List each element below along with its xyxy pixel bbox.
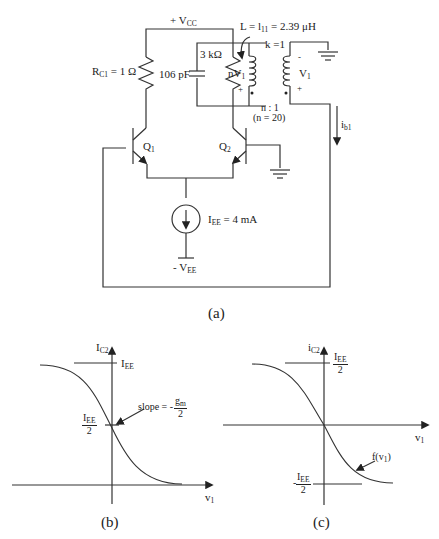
plot-c-top-fraction: IEE2 bbox=[333, 352, 348, 375]
rc1-label: RC1 = 1 Ω bbox=[92, 66, 136, 79]
turns-ratio-n-label: (n = 20) bbox=[253, 113, 285, 123]
plot-b-half-iee-label: IEE2 bbox=[82, 413, 97, 436]
inductor-label: L = l11 = 2.39 μH bbox=[240, 21, 316, 34]
plot-b bbox=[12, 348, 212, 504]
secondary-plus: + bbox=[297, 84, 302, 93]
caption-c: (c) bbox=[313, 514, 330, 531]
q1-label: Q1 bbox=[143, 141, 155, 154]
plot-b-ylabel: IC2 bbox=[96, 342, 108, 355]
secondary-minus: - bbox=[298, 53, 301, 62]
v1-label: V1 bbox=[299, 68, 311, 81]
primary-coil bbox=[249, 43, 256, 106]
current-source-iee bbox=[172, 178, 200, 258]
capacitor-label: 106 pF bbox=[159, 69, 190, 80]
caption-a: (a) bbox=[208, 305, 225, 322]
vee-label: - VEE bbox=[173, 262, 196, 275]
plot-c-bottom-fraction: IEE2 bbox=[296, 472, 311, 495]
plot-b-gm-fraction: gm2 bbox=[174, 396, 187, 419]
plot-c bbox=[223, 348, 428, 505]
plot-c-xlabel: v1 bbox=[415, 432, 424, 445]
q2-transistor bbox=[233, 128, 290, 178]
rc1-resistor bbox=[139, 57, 153, 128]
nv1-label: nV1 bbox=[228, 68, 245, 81]
plot-c-ylabel: iC2 bbox=[308, 342, 320, 355]
caption-b: (b) bbox=[101, 514, 119, 531]
plot-b-iee-label: IEE bbox=[121, 358, 134, 371]
plot-c-f-label: f(v1) bbox=[372, 452, 391, 464]
ib1-label: ib1 bbox=[341, 119, 352, 132]
plot-b-slope-label: slope = - bbox=[138, 402, 173, 412]
plot-b-xlabel: v1 bbox=[205, 492, 214, 505]
resistor-3k-label: 3 kΩ bbox=[200, 49, 222, 60]
vcc-label: + VCC bbox=[170, 15, 197, 28]
iee-label: IEE = 4 mA bbox=[208, 214, 257, 227]
q2-label: Q2 bbox=[219, 141, 231, 154]
primary-plus: + bbox=[238, 85, 243, 94]
coupling-label: k =1 bbox=[265, 39, 285, 50]
